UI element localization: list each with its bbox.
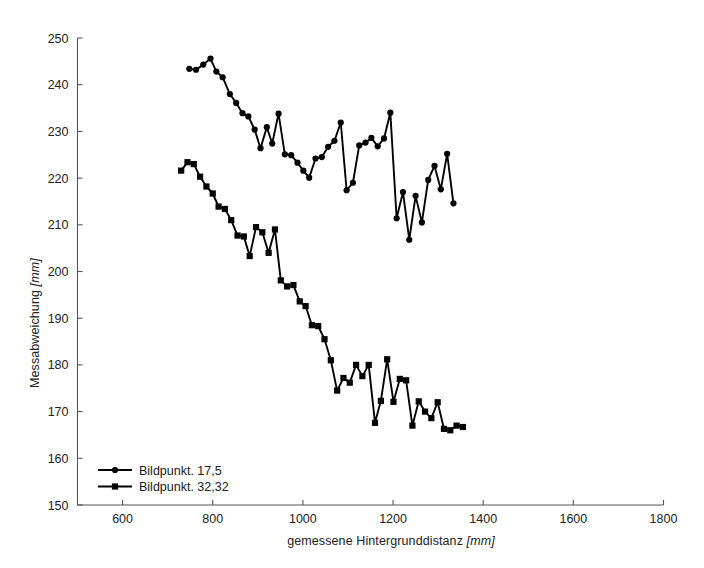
series-marker (435, 399, 441, 405)
line-chart-canvas: 1501601701801902002102202302402506008001… (0, 0, 704, 568)
series-marker (269, 140, 275, 146)
series-marker (340, 375, 346, 381)
chart-series-layer (178, 55, 466, 433)
legend-marker (112, 483, 118, 489)
chart-axes: 1501601701801902002102202302402506008001… (48, 32, 678, 527)
y-axis-tick-label: 190 (48, 312, 69, 326)
series-marker (247, 253, 253, 259)
series-marker (447, 427, 453, 433)
series-marker (390, 399, 396, 405)
series-marker (460, 424, 466, 430)
y-axis-tick-label: 220 (48, 172, 69, 186)
series-marker (403, 377, 409, 383)
series-marker (428, 415, 434, 421)
series-marker (353, 362, 359, 368)
series-marker (234, 232, 240, 238)
series-marker (381, 135, 387, 141)
y-axis-tick-label: 180 (48, 358, 69, 372)
series-2 (178, 159, 466, 433)
series-marker (347, 380, 353, 386)
series-marker (275, 111, 281, 117)
series-marker (290, 282, 296, 288)
x-axis-tick-label: 1200 (379, 512, 407, 526)
series-marker (334, 387, 340, 393)
series-marker (438, 186, 444, 192)
series-marker (368, 135, 374, 141)
series-marker (319, 154, 325, 160)
series-marker (228, 217, 234, 223)
series-marker (186, 66, 192, 72)
series-marker (416, 398, 422, 404)
series-marker (362, 140, 368, 146)
y-axis-tick-label: 230 (48, 125, 69, 139)
series-marker (309, 322, 315, 328)
y-axis-tick-label: 250 (48, 32, 69, 46)
series-marker (184, 159, 190, 165)
series-marker (302, 303, 308, 309)
series-marker (252, 126, 258, 132)
series-marker (253, 224, 259, 230)
series-marker (366, 362, 372, 368)
series-marker (300, 168, 306, 174)
series-marker (259, 229, 265, 235)
series-marker (409, 423, 415, 429)
legend-label: Bildpunkt. 32,32 (139, 480, 229, 494)
series-line (189, 59, 453, 240)
series-marker (241, 233, 247, 239)
x-axis-tick-label: 1000 (289, 512, 317, 526)
series-marker (325, 144, 331, 150)
series-marker (220, 74, 226, 80)
series-marker (239, 110, 245, 116)
series-marker (215, 203, 221, 209)
series-marker (245, 113, 251, 119)
series-marker (422, 409, 428, 415)
series-marker (412, 193, 418, 199)
series-marker (284, 283, 290, 289)
series-marker (387, 110, 393, 116)
legend-label: Bildpunkt. 17,5 (139, 464, 222, 478)
series-marker (372, 420, 378, 426)
series-marker (425, 177, 431, 183)
series-marker (306, 175, 312, 181)
series-marker (210, 190, 216, 196)
series-marker (312, 155, 318, 161)
series-marker (207, 55, 213, 61)
series-marker (406, 237, 412, 243)
series-marker (193, 67, 199, 73)
series-marker (178, 168, 184, 174)
series-marker (282, 151, 288, 157)
x-axis-tick-label: 1600 (559, 512, 587, 526)
series-marker (294, 160, 300, 166)
series-line (181, 162, 463, 430)
series-marker (375, 143, 381, 149)
series-marker (213, 69, 219, 75)
y-axis-tick-label: 200 (48, 265, 69, 279)
series-marker (233, 100, 239, 106)
series-marker (288, 152, 294, 158)
series-marker (297, 298, 303, 304)
series-marker (453, 423, 459, 429)
series-marker (384, 356, 390, 362)
chart-legend: Bildpunkt. 17,5Bildpunkt. 32,32 (98, 464, 229, 495)
series-marker (203, 183, 209, 189)
y-axis-tick-label: 240 (48, 78, 69, 92)
y-axis-label-text: Messabweichung (28, 290, 42, 388)
x-axis-tick-label: 1800 (650, 512, 678, 526)
series-marker (321, 336, 327, 342)
series-marker (315, 323, 321, 329)
series-marker (200, 62, 206, 68)
series-marker (266, 250, 272, 256)
legend-marker (112, 467, 118, 473)
series-marker (378, 398, 384, 404)
series-marker (419, 219, 425, 225)
series-marker (328, 357, 334, 363)
x-axis-tick-label: 600 (112, 512, 133, 526)
y-axis-tick-label: 170 (48, 405, 69, 419)
series-marker (264, 124, 270, 130)
chart-figure: 1501601701801902002102202302402506008001… (0, 0, 704, 568)
y-axis-tick-label: 150 (48, 499, 69, 513)
x-axis-label-text: gemessene Hintergrunddistanz (287, 534, 463, 548)
series-marker (397, 376, 403, 382)
series-marker (350, 180, 356, 186)
x-axis-tick-label: 800 (202, 512, 223, 526)
